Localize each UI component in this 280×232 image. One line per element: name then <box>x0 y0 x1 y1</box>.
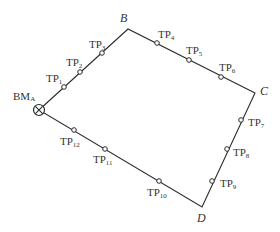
turning-point-marker-icon <box>225 147 230 152</box>
turning-point-marker-icon <box>187 58 192 63</box>
turning-point-marker-icon <box>78 70 83 75</box>
vertex-label-d: D <box>196 211 206 225</box>
turning-point-label: TP9 <box>220 177 237 191</box>
vertex-label-b: B <box>120 11 128 25</box>
benchmark-label: BMA <box>13 90 35 103</box>
turning-point-label: TP5 <box>186 44 203 58</box>
turning-point-marker-icon <box>219 75 224 80</box>
turning-point-tp5: TP5 <box>186 44 203 62</box>
turning-point-tp12: TP12 <box>60 128 80 149</box>
turning-point-marker-icon <box>72 128 77 133</box>
turning-point-label: TP6 <box>219 61 236 75</box>
turning-point-tp10: TP10 <box>147 179 167 200</box>
turning-point-tp9: TP9 <box>210 177 237 191</box>
turning-point-tp11: TP11 <box>93 147 113 167</box>
turning-point-marker-icon <box>103 147 108 152</box>
turning-point-marker-icon <box>62 85 67 90</box>
turning-point-marker-icon <box>157 179 162 184</box>
turning-point-label: TP4 <box>158 28 175 42</box>
turning-point-marker-icon <box>210 179 215 184</box>
turning-point-label: TP11 <box>93 153 113 167</box>
turning-point-label: TP1 <box>46 72 63 86</box>
turning-point-marker-icon <box>239 118 244 123</box>
turning-point-label: TP2 <box>66 56 83 70</box>
benchmark-bm-a: BMA <box>13 90 45 116</box>
turning-point-tp1: TP1 <box>46 72 66 89</box>
leveling-route-diagram: TP1TP2TP3TP4TP5TP6TP7TP8TP9TP10TP11TP12 … <box>0 0 280 232</box>
turning-point-label: TP12 <box>60 135 80 149</box>
turning-point-tp7: TP7 <box>239 116 265 130</box>
turning-point-tp8: TP8 <box>225 146 250 160</box>
turning-point-tp6: TP6 <box>219 61 236 79</box>
turning-points: TP1TP2TP3TP4TP5TP6TP7TP8TP9TP10TP11TP12 <box>46 28 265 200</box>
turning-point-label: TP8 <box>233 146 250 160</box>
turning-point-label: TP3 <box>89 38 106 52</box>
turning-point-label: TP7 <box>248 116 265 130</box>
turning-point-tp3: TP3 <box>89 38 106 55</box>
turning-point-marker-icon <box>155 41 160 46</box>
vertex-label-c: C <box>260 84 269 98</box>
turning-point-tp2: TP2 <box>66 56 83 74</box>
turning-point-label: TP10 <box>147 186 167 200</box>
turning-point-tp4: TP4 <box>155 28 175 45</box>
